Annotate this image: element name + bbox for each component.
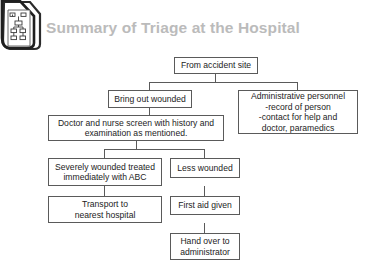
node-transport-to-hospital[interactable]: Transport to nearest hospital (48, 196, 162, 223)
connector-to-n6 (204, 149, 205, 158)
connector-to-n2 (149, 82, 150, 90)
connector-n8-to-n9 (204, 223, 205, 233)
node-label-line-2: administrator (174, 247, 236, 258)
node-doctor-nurse-screen[interactable]: Doctor and nurse screen with history and… (48, 115, 224, 141)
node-bring-out-wounded[interactable]: Bring out wounded (108, 90, 192, 108)
connector-n4-split (104, 149, 204, 150)
node-label-line-1: Hand over to (174, 236, 236, 247)
connector-n1-stem (215, 74, 216, 82)
node-label: First aid given (174, 200, 236, 211)
connector-n1-split (149, 82, 297, 83)
connector-n2-to-n4 (149, 108, 150, 115)
triage-flowchart: From accident site Bring out wounded Adm… (0, 0, 367, 268)
connector-n6-to-n8 (204, 186, 205, 196)
node-label-line-2: nearest hospital (52, 210, 158, 221)
connector-to-n5 (104, 149, 105, 158)
node-label-line-2: -record of person (242, 102, 354, 113)
node-label: Bring out wounded (112, 94, 188, 105)
node-label-line-1: Transport to (52, 199, 158, 210)
connector-n5-to-n7 (104, 186, 105, 196)
node-label: Less wounded (174, 163, 236, 174)
node-label-line-4: doctor, paramedics (242, 123, 354, 134)
node-hand-over-to-administrator[interactable]: Hand over to administrator (170, 233, 240, 260)
node-first-aid-given[interactable]: First aid given (170, 196, 240, 215)
node-label-line-1: Administrative personnel (242, 91, 354, 102)
node-label: From accident site (178, 60, 254, 71)
connector-to-n3 (297, 82, 298, 90)
flowchart-page: Summary of Triage at the Hospital From a… (0, 0, 367, 268)
node-severely-wounded[interactable]: Severely wounded treated immediately wit… (48, 158, 162, 186)
node-label-line-2: immediately with ABC (52, 172, 158, 183)
node-less-wounded[interactable]: Less wounded (170, 158, 240, 178)
node-label-line-1: Severely wounded treated (52, 162, 158, 173)
node-label-line-3: -contact for help and (242, 112, 354, 123)
node-label-line-2: examination as mentioned. (52, 128, 220, 139)
node-label-line-1: Doctor and nurse screen with history and (52, 118, 220, 129)
node-administrative-personnel[interactable]: Administrative personnel -record of pers… (238, 90, 358, 134)
node-from-accident-site[interactable]: From accident site (174, 57, 258, 74)
connector-n4-stem (136, 141, 137, 149)
